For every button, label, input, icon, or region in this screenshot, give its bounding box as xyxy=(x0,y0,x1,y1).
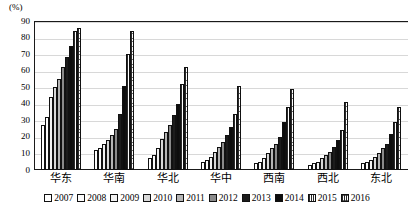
y-tick-label: 10 xyxy=(21,149,30,158)
legend-label: 2011 xyxy=(186,193,205,203)
bar xyxy=(77,28,81,170)
legend-item[interactable]: 2011 xyxy=(176,193,205,203)
legend-item[interactable]: 2012 xyxy=(209,193,238,203)
bar-chart: (%) 9080706050403020100 华东华南华北华中西南西北东北 2… xyxy=(0,0,414,208)
bar-group xyxy=(94,21,134,170)
legend-swatch-icon xyxy=(308,194,316,202)
legend-label: 2015 xyxy=(318,193,337,203)
chart-legend: 2007200820092010201120122013201420152016 xyxy=(0,190,414,206)
y-tick-label: 60 xyxy=(21,66,30,75)
legend-label: 2014 xyxy=(285,193,304,203)
y-tick-label: 90 xyxy=(21,17,30,26)
legend-item[interactable]: 2007 xyxy=(44,193,73,203)
bar xyxy=(130,31,134,170)
bar xyxy=(290,89,294,170)
y-tick-label: 20 xyxy=(21,132,30,141)
y-tick-label: 70 xyxy=(21,50,30,59)
legend-swatch-icon xyxy=(242,194,250,202)
y-tick-label: 0 xyxy=(26,166,31,175)
legend-swatch-icon xyxy=(176,194,184,202)
legend-item[interactable]: 2009 xyxy=(110,193,139,203)
legend-swatch-icon xyxy=(275,194,283,202)
legend-label: 2008 xyxy=(87,193,106,203)
legend-label: 2013 xyxy=(252,193,271,203)
legend-item[interactable]: 2014 xyxy=(275,193,304,203)
bar-group xyxy=(361,21,401,170)
legend-item[interactable]: 2010 xyxy=(143,193,172,203)
x-tick-label: 东北 xyxy=(355,172,408,186)
x-axis-category-labels: 华东华南华北华中西南西北东北 xyxy=(34,172,408,188)
bar xyxy=(237,86,241,170)
legend-item[interactable]: 2013 xyxy=(242,193,271,203)
y-tick-label: 40 xyxy=(21,99,30,108)
legend-label: 2010 xyxy=(153,193,172,203)
legend-item[interactable]: 2015 xyxy=(308,193,337,203)
legend-swatch-icon xyxy=(209,194,217,202)
legend-swatch-icon xyxy=(143,194,151,202)
y-tick-label: 50 xyxy=(21,83,30,92)
bar-group xyxy=(308,21,348,170)
bar xyxy=(344,102,348,170)
x-tick-label: 西北 xyxy=(301,172,354,186)
legend-label: 2012 xyxy=(219,193,238,203)
x-tick-label: 华东 xyxy=(34,172,87,186)
legend-swatch-icon xyxy=(110,194,118,202)
y-axis-tick-labels: 9080706050403020100 xyxy=(0,0,34,171)
bar-group xyxy=(41,21,81,170)
legend-item[interactable]: 2016 xyxy=(341,193,370,203)
y-tick-label: 30 xyxy=(21,116,30,125)
x-tick-label: 华北 xyxy=(141,172,194,186)
legend-label: 2016 xyxy=(351,193,370,203)
x-tick-label: 华南 xyxy=(87,172,140,186)
legend-swatch-icon xyxy=(44,194,52,202)
bar-group xyxy=(148,21,188,170)
bar-group xyxy=(254,21,294,170)
legend-item[interactable]: 2008 xyxy=(77,193,106,203)
bar xyxy=(184,67,188,170)
legend-swatch-icon xyxy=(77,194,85,202)
bar-groups xyxy=(34,21,408,170)
x-tick-label: 西南 xyxy=(248,172,301,186)
y-tick-label: 80 xyxy=(21,33,30,42)
x-tick-label: 华中 xyxy=(194,172,247,186)
legend-label: 2007 xyxy=(54,193,73,203)
legend-label: 2009 xyxy=(120,193,139,203)
bar-group xyxy=(201,21,241,170)
legend-swatch-icon xyxy=(341,194,349,202)
bar xyxy=(397,107,401,170)
